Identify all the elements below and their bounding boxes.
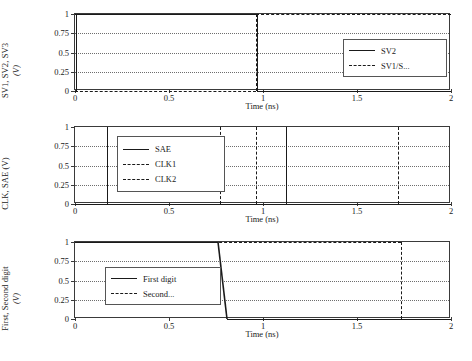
waveform-sv2-low [257, 91, 451, 92]
legend-label-sae: SAE [155, 144, 171, 154]
y-tick-label-0.75: 0.75 [54, 256, 69, 266]
y-axis-title-panel-1: SV1, SV2, SV3 (V) [0, 32, 28, 109]
x-axis-title-panel-1: Time (ns) [74, 101, 450, 111]
y-tick-label-0.25: 0.25 [54, 180, 69, 190]
waveform-sv1-high [256, 14, 451, 15]
waveform-sv2-rising-edge [76, 14, 77, 91]
y-tick-0.5 [71, 53, 75, 54]
y-axis-title-panel-3: First, Second digit (V) [0, 260, 28, 337]
legend-line-dashed-icon [111, 293, 137, 294]
y-tick-0.75 [71, 33, 75, 34]
y-tick-label-0.5: 0.5 [58, 276, 69, 286]
y-axis-title-text-panel-2: CLK, SAE (V) [0, 157, 10, 209]
waveform-first-digit-high [75, 242, 218, 243]
legend-item-sv1: SV1/S... [349, 58, 441, 73]
plot-area-panel-3: 1 0.75 0.5 0.25 0 0 0.5 1 1.5 2 [74, 241, 450, 318]
waveform-sv2-falling-edge [257, 14, 258, 91]
legend-item-clk1: CLK1 [123, 157, 219, 172]
y-tick-label-0.5: 0.5 [58, 48, 69, 58]
plot-area-panel-1: 1 0.75 0.5 0.25 0 0 0.5 1 1.5 2 [74, 13, 450, 90]
y-tick-label-1: 1 [65, 237, 69, 247]
legend-item-second-digit: Second... [111, 286, 215, 301]
y-tick-label-1: 1 [65, 9, 69, 19]
y-axis-title-text-panel-1: SV1, SV2, SV3 [0, 43, 10, 98]
y-tick-0.5 [71, 281, 75, 282]
legend-panel-2: SAE CLK1 CLK2 [117, 136, 225, 192]
y-tick-0.25 [71, 300, 75, 301]
waveform-sae-pulse-2 [286, 127, 287, 204]
y-tick-0.25 [71, 185, 75, 186]
gridline-0.75 [75, 33, 449, 34]
x-axis-title-panel-2: Time (ns) [74, 214, 450, 224]
waveform-second-digit-falling-edge [401, 242, 402, 319]
legend-label-first-digit: First digit [143, 274, 176, 284]
legend-line-solid-icon [349, 50, 375, 51]
subplot-sv-signals: SV1, SV2, SV3 (V) 1 0.75 0.5 0.25 0 0 0.… [0, 0, 472, 120]
y-tick-label-0: 0 [65, 314, 69, 324]
y-tick-label-0.75: 0.75 [54, 141, 69, 151]
waveform-clk2-pulse-1 [256, 127, 257, 204]
legend-label-sv2: SV2 [381, 46, 396, 56]
waveform-clk1-pulse-2 [398, 127, 399, 204]
x-axis-title-panel-3: Time (ns) [74, 329, 450, 339]
y-tick-label-0: 0 [65, 86, 69, 96]
legend-line-dashed-icon [349, 65, 375, 66]
legend-line-solid-icon [111, 278, 137, 279]
waveform-first-digit-low [227, 319, 451, 320]
subplot-digits: First, Second digit (V) 1 0.75 0.5 0.25 … [0, 228, 472, 348]
legend-line-solid-icon [123, 149, 149, 150]
legend-item-sae: SAE [123, 142, 219, 157]
y-axis-unit-panel-1: (V) [11, 65, 21, 76]
legend-item-sv2: SV2 [349, 43, 441, 58]
legend-label-clk2: CLK2 [155, 174, 176, 184]
y-axis-title-text-panel-3: First, Second digit [0, 266, 10, 330]
y-tick-1 [71, 127, 75, 128]
waveform-sv1-low [75, 91, 256, 92]
plot-area-panel-2: 1 0.75 0.5 0.25 0 0 0.5 1 1.5 2 [74, 126, 450, 203]
legend-panel-3: First digit Second... [105, 267, 221, 305]
waveform-sae-baseline [75, 204, 451, 205]
y-tick-label-1: 1 [65, 122, 69, 132]
y-tick-label-0.75: 0.75 [54, 28, 69, 38]
legend-item-first-digit: First digit [111, 271, 215, 286]
y-tick-0.5 [71, 166, 75, 167]
y-tick-0.75 [71, 146, 75, 147]
y-tick-label-0: 0 [65, 199, 69, 209]
legend-label-sv1: SV1/S... [381, 61, 410, 71]
gridline-0.75 [75, 261, 449, 262]
legend-panel-1: SV2 SV1/S... [343, 39, 447, 77]
y-tick-label-0.25: 0.25 [54, 295, 69, 305]
legend-item-clk2: CLK2 [123, 172, 219, 187]
waveform-sae-pulse-1 [107, 127, 108, 204]
y-tick-label-0.25: 0.25 [54, 67, 69, 77]
legend-line-dashed-icon [123, 179, 149, 180]
legend-label-clk1: CLK1 [155, 159, 176, 169]
legend-line-dashed-icon [123, 164, 149, 165]
y-axis-unit-panel-3: (V) [11, 293, 21, 304]
y-axis-title-panel-2: CLK, SAE (V) [0, 145, 20, 222]
y-tick-0.75 [71, 261, 75, 262]
waveform-sv2-high [75, 14, 257, 15]
y-tick-label-0.5: 0.5 [58, 161, 69, 171]
legend-label-second-digit: Second... [143, 289, 174, 299]
timing-waveform-figure: SV1, SV2, SV3 (V) 1 0.75 0.5 0.25 0 0 0.… [0, 0, 472, 361]
subplot-clk-sae: CLK, SAE (V) 1 0.75 0.5 0.25 0 0 0.5 1 1… [0, 113, 472, 233]
y-tick-0.25 [71, 72, 75, 73]
